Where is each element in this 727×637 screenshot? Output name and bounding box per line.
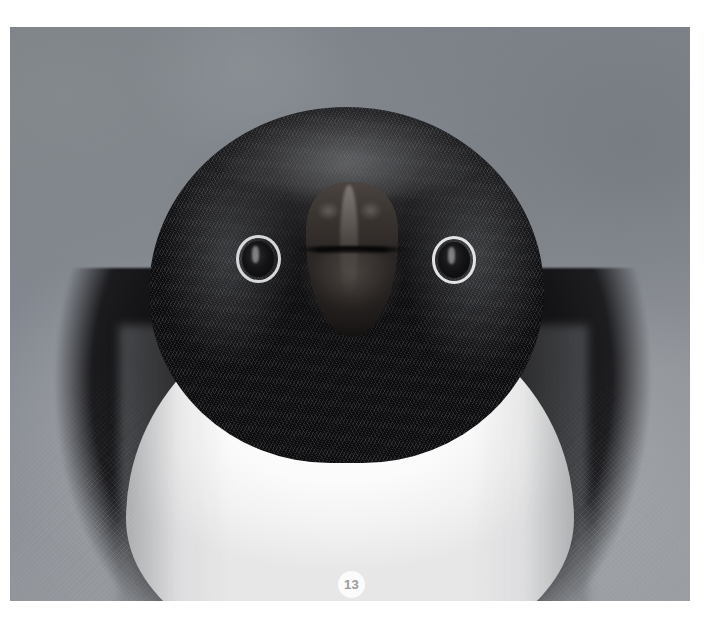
image-index-badge[interactable]: 13	[338, 571, 365, 598]
penguin-eye-left	[236, 235, 281, 283]
penguin-portrait-photo[interactable]	[10, 27, 690, 601]
penguin-eye-right	[432, 236, 477, 284]
beak-nostril-right	[359, 201, 382, 219]
eye-ring-left	[236, 235, 281, 283]
page-root: 13	[0, 0, 727, 637]
penguin-subject	[10, 27, 690, 601]
eye-ring-right	[432, 236, 477, 284]
